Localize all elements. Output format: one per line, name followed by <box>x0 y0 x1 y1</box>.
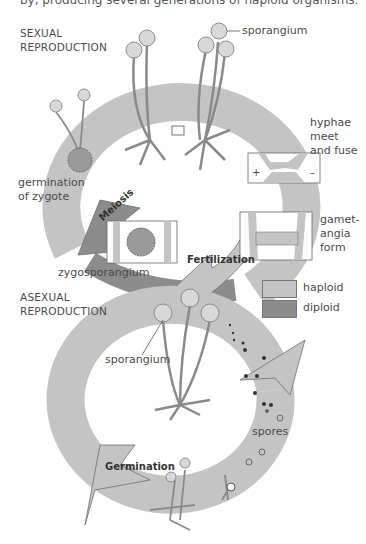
spores-label: spores <box>252 425 288 439</box>
gametangia-label-1: gamet- <box>320 213 360 227</box>
legend-swatch-haploid <box>262 280 297 298</box>
gametangia-label-3: form <box>320 241 346 255</box>
zygosporangium-box <box>107 221 177 263</box>
plus-sign: + <box>252 166 260 180</box>
hyphae-label-2: meet <box>310 130 339 144</box>
sexual-title-line2: REPRODUCTION <box>20 40 107 54</box>
legend-label-diploid: diploid <box>303 301 340 315</box>
asexual-title-line1: ASEXUAL <box>20 290 70 304</box>
asexual-sporangium-label: sporangium <box>105 353 170 367</box>
life-cycle-diagram <box>0 0 366 544</box>
gametangia-label-2: angia <box>320 227 351 241</box>
zygote <box>68 148 92 172</box>
fertilization-label: Fertilization <box>187 253 255 267</box>
germination-label: Germination <box>105 460 175 474</box>
hyphae-label-1: hyphae <box>310 116 351 130</box>
legend-swatch-diploid <box>262 300 297 318</box>
asexual-title-line2: REPRODUCTION <box>20 304 107 318</box>
sexual-cycle-ring <box>61 102 301 292</box>
legend-label-haploid: haploid <box>303 281 344 295</box>
minus-sign: – <box>310 166 315 180</box>
hyphae-zoom-box <box>172 126 184 135</box>
germination-zygote-label-1: germination <box>18 176 85 190</box>
zygosporangium-label: zygosporangium <box>58 266 149 280</box>
hyphae-label-3: and fuse <box>310 144 358 158</box>
sexual-title-line1: SEXUAL <box>20 26 62 40</box>
germination-zygote-label-2: of zygote <box>18 190 69 204</box>
sporangium-label: sporangium <box>242 24 307 38</box>
